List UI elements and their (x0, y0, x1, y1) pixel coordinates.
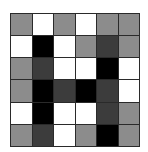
grid-cell (11, 103, 32, 124)
grid-cell (54, 58, 75, 79)
grid-cell (76, 103, 97, 124)
grid-cell (11, 125, 32, 146)
grid-cell (11, 36, 32, 57)
grid-cell (54, 36, 75, 57)
grid-cell (54, 14, 75, 35)
grid-cell (11, 80, 32, 101)
grid-cell (97, 58, 118, 79)
grid-cell (33, 80, 54, 101)
grid-cell (11, 58, 32, 79)
grid-cell (33, 103, 54, 124)
grid-cell (119, 125, 140, 146)
grid-cell (33, 14, 54, 35)
grid-cell (76, 14, 97, 35)
grid-cell (54, 125, 75, 146)
grid-cell (119, 80, 140, 101)
grid-cell (97, 36, 118, 57)
grid-cell (119, 14, 140, 35)
grid-cell (33, 58, 54, 79)
grid-cell (33, 36, 54, 57)
grid-cell (54, 80, 75, 101)
grid-cell (97, 80, 118, 101)
grid-cell (76, 36, 97, 57)
grid-cell (97, 103, 118, 124)
grid-cell (54, 103, 75, 124)
grid-cell (33, 125, 54, 146)
grid-cell (119, 58, 140, 79)
grid-cell (97, 14, 118, 35)
grid-cell (119, 103, 140, 124)
grid-cell (11, 14, 32, 35)
grid-cell (76, 125, 97, 146)
grayscale-grid (10, 13, 140, 147)
grid-cell (119, 36, 140, 57)
grid-cell (76, 80, 97, 101)
grid-cell (76, 58, 97, 79)
grid-cell (97, 125, 118, 146)
